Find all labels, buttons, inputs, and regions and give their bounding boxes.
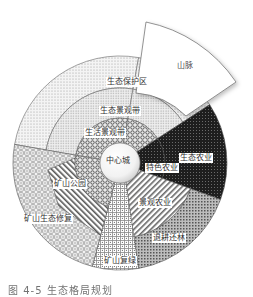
label-landscape-agriculture: 景观农业 bbox=[138, 198, 172, 208]
label-eco-agriculture: 生态农业 bbox=[179, 153, 213, 163]
label-mine-park: 矿山公园 bbox=[53, 179, 87, 189]
label-eco-protect-zone: 生态保护区 bbox=[106, 77, 148, 87]
label-center-city: 中心城 bbox=[106, 156, 130, 166]
label-special-agriculture: 特色农业 bbox=[145, 163, 179, 173]
label-mine-eco-restoration: 矿山生态修复 bbox=[23, 214, 73, 224]
label-life-landscape-belt: 生活景观带 bbox=[84, 128, 126, 138]
label-reforestation: 退耕还林 bbox=[152, 233, 186, 243]
label-mountain: 山脉 bbox=[177, 61, 193, 71]
figure-caption: 图 4-5 生态格局规划 bbox=[8, 282, 113, 297]
label-eco-landscape-belt: 生态景观带 bbox=[99, 106, 141, 116]
label-mine-regreening: 矿山复绿 bbox=[103, 256, 137, 266]
